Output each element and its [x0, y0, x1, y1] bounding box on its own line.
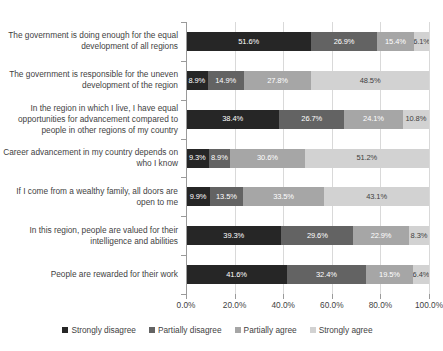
x-axis-tick-label: 60.0% — [320, 300, 344, 310]
bar-segment-label: 51.6% — [238, 38, 259, 46]
stacked-bar[interactable]: 9.3%8.9%30.6%51.2% — [186, 149, 429, 168]
bar-segment[interactable]: 8.9% — [209, 149, 231, 168]
stacked-bar[interactable]: 51.6%26.9%15.4%6.1% — [186, 32, 429, 51]
y-axis-tick — [181, 255, 186, 256]
legend-label: Partially agree — [244, 325, 297, 335]
y-axis-tick — [181, 100, 186, 101]
category-label: The government is doing enough for the e… — [0, 30, 182, 52]
legend-swatch-icon — [310, 327, 316, 333]
category-label: In this region, people are valued for th… — [0, 225, 182, 247]
bar-segment-label: 43.1% — [366, 193, 387, 201]
x-axis-tick — [380, 294, 381, 299]
bar-segment[interactable]: 43.1% — [324, 187, 429, 206]
x-axis-tick — [186, 294, 187, 299]
bar-segment[interactable]: 10.8% — [403, 110, 429, 129]
y-axis-tick — [181, 139, 186, 140]
x-axis-tick — [332, 294, 333, 299]
bar-segment[interactable]: 8.3% — [409, 226, 429, 245]
bar-segment-label: 26.7% — [301, 115, 322, 123]
bar-segment[interactable]: 9.3% — [186, 149, 209, 168]
x-axis-tick-label: 80.0% — [369, 300, 393, 310]
legend-swatch-icon — [235, 327, 241, 333]
y-axis-tick — [181, 177, 186, 178]
y-axis-tick — [181, 22, 186, 23]
bar-segment[interactable]: 22.9% — [353, 226, 409, 245]
bar-segment-label: 48.5% — [360, 77, 381, 85]
bar-segment[interactable]: 19.5% — [366, 265, 413, 284]
legend-item[interactable]: Partially disagree — [149, 325, 222, 335]
x-axis-labels: 0.0%20.0%40.0%60.0%80.0%100.0% — [186, 300, 429, 312]
stacked-bar[interactable]: 38.4%26.7%24.1%10.8% — [186, 110, 429, 129]
stacked-bar[interactable]: 39.3%29.6%22.9%8.3% — [186, 226, 429, 245]
bar-segment-label: 22.9% — [371, 232, 392, 240]
legend-item[interactable]: Strongly agree — [310, 325, 373, 335]
legend-label: Partially disagree — [158, 325, 222, 335]
bar-row-slot: 8.9%14.9%27.8%48.5% — [186, 61, 429, 100]
legend-item[interactable]: Strongly disagree — [62, 325, 136, 335]
bar-segment[interactable]: 15.4% — [377, 32, 414, 51]
bar-row-slot: 39.3%29.6%22.9%8.3% — [186, 216, 429, 255]
category-label: In the region in which I live, I have eq… — [0, 103, 182, 136]
category-label-slot: If I come from a wealthy family, all doo… — [0, 177, 182, 216]
chart-legend: Strongly disagreePartially disagreeParti… — [0, 325, 435, 335]
bar-segment-label: 6.1% — [414, 38, 429, 46]
bar-segment[interactable]: 38.4% — [186, 110, 279, 129]
bar-segment[interactable]: 26.7% — [279, 110, 344, 129]
bar-segment-label: 13.5% — [216, 193, 237, 201]
legend-label: Strongly disagree — [71, 325, 136, 335]
bar-segment[interactable]: 14.9% — [208, 71, 244, 90]
category-label: If I come from a wealthy family, all doo… — [0, 186, 182, 208]
legend-item[interactable]: Partially agree — [235, 325, 297, 335]
stacked-bar[interactable]: 41.6%32.4%19.5%6.4% — [186, 265, 429, 284]
gridline — [429, 22, 430, 294]
bar-segment[interactable]: 33.5% — [243, 187, 324, 206]
bar-segment-label: 14.9% — [215, 77, 236, 85]
category-label-slot: The government is responsible for the un… — [0, 61, 182, 100]
bar-segment-label: 6.4% — [413, 271, 429, 279]
bar-segment[interactable]: 6.4% — [413, 265, 429, 284]
bar-segment-label: 8.3% — [411, 232, 428, 240]
bar-segment[interactable]: 41.6% — [186, 265, 287, 284]
legend-swatch-icon — [62, 327, 68, 333]
x-axis-tick-label: 40.0% — [271, 300, 295, 310]
x-axis-tick — [429, 294, 430, 299]
bar-segment-label: 15.4% — [385, 38, 406, 46]
bar-segment-label: 19.5% — [379, 271, 400, 279]
x-axis-tick — [283, 294, 284, 299]
x-axis-tick-label: 20.0% — [223, 300, 247, 310]
bar-segment[interactable]: 51.6% — [186, 32, 311, 51]
bar-segment-label: 8.9% — [211, 154, 228, 162]
bar-segment[interactable]: 30.6% — [230, 149, 304, 168]
bar-row-slot: 41.6%32.4%19.5%6.4% — [186, 255, 429, 294]
bar-row-slot: 51.6%26.9%15.4%6.1% — [186, 22, 429, 61]
bar-segment[interactable]: 13.5% — [210, 187, 243, 206]
y-axis-tick — [181, 61, 186, 62]
bar-segment[interactable]: 29.6% — [281, 226, 353, 245]
stacked-bar[interactable]: 8.9%14.9%27.8%48.5% — [186, 71, 429, 90]
bar-segment-label: 39.3% — [223, 232, 244, 240]
bar-segment-label: 26.9% — [334, 38, 355, 46]
stacked-bar[interactable]: 9.9%13.5%33.5%43.1% — [186, 187, 429, 206]
bar-segment[interactable]: 26.9% — [311, 32, 376, 51]
bar-segment[interactable]: 51.2% — [305, 149, 429, 168]
bar-segment[interactable]: 9.9% — [186, 187, 210, 206]
x-axis-tick — [235, 294, 236, 299]
category-label: Career advancement in my country depends… — [0, 147, 182, 169]
category-label-slot: In this region, people are valued for th… — [0, 216, 182, 255]
bar-segment[interactable]: 24.1% — [344, 110, 403, 129]
bar-segment-label: 27.8% — [267, 77, 288, 85]
bar-segment-label: 41.6% — [226, 271, 247, 279]
bar-segment[interactable]: 27.8% — [244, 71, 311, 90]
bar-segment-label: 9.3% — [189, 154, 206, 162]
bar-segment[interactable]: 48.5% — [311, 71, 429, 90]
bar-segment[interactable]: 32.4% — [287, 265, 366, 284]
y-axis-ticks — [181, 22, 186, 294]
bar-segment-label: 30.6% — [257, 154, 278, 162]
bar-segment[interactable]: 6.1% — [414, 32, 429, 51]
category-label-slot: The government is doing enough for the e… — [0, 22, 182, 61]
bar-segment-label: 29.6% — [307, 232, 328, 240]
bar-row-slot: 9.3%8.9%30.6%51.2% — [186, 139, 429, 178]
bar-segment[interactable]: 39.3% — [186, 226, 281, 245]
bar-segment[interactable]: 8.9% — [186, 71, 208, 90]
category-label-slot: Career advancement in my country depends… — [0, 139, 182, 178]
